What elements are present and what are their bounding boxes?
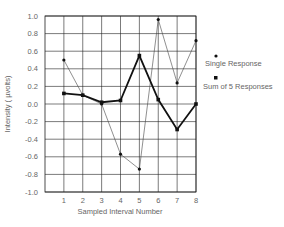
sum-data-point (100, 100, 104, 104)
legend-sum-marker-icon (214, 76, 218, 80)
sum-data-point (62, 92, 66, 96)
single-data-point (119, 153, 122, 156)
x-tick-label: 5 (137, 196, 141, 205)
y-tick-label: -0.8 (25, 170, 38, 179)
y-tick-label: 0.8 (28, 29, 38, 38)
y-axis-label: Intensity ( µvolts) (3, 75, 12, 132)
single-data-point (194, 39, 197, 42)
legend-single-label: Single Response (205, 59, 262, 68)
x-tick-label: 7 (175, 196, 179, 205)
y-tick-label: 0.4 (28, 64, 38, 73)
x-axis-ticks: 12345678 (62, 196, 198, 205)
x-tick-label: 2 (81, 196, 85, 205)
sum-data-point (81, 93, 85, 97)
y-tick-label: -0.6 (25, 152, 38, 161)
x-tick-label: 4 (118, 196, 122, 205)
legend-single-marker-icon (214, 54, 217, 57)
single-data-point (138, 168, 141, 171)
sum-data-point (119, 99, 123, 103)
x-tick-label: 6 (156, 196, 160, 205)
sum-data-point (156, 98, 160, 102)
y-tick-label: 0.0 (28, 100, 38, 109)
sum-data-point (194, 102, 198, 106)
chart-series (62, 18, 198, 171)
line-chart: 1.00.80.60.40.20.0-0.2-0.4-0.6-0.8-1.0 1… (0, 0, 284, 227)
legend: Single Response Sum of 5 Responses (203, 54, 273, 91)
x-tick-label: 3 (100, 196, 104, 205)
y-tick-label: -0.4 (25, 135, 38, 144)
y-tick-label: 1.0 (28, 12, 38, 21)
single-data-point (176, 81, 179, 84)
single-data-point (62, 58, 65, 61)
sum-series-line (64, 56, 196, 130)
y-tick-label: 0.2 (28, 82, 38, 91)
single-data-point (157, 18, 160, 21)
sum-data-point (138, 54, 142, 58)
y-tick-label: -1.0 (25, 188, 38, 197)
x-tick-label: 8 (194, 196, 198, 205)
x-tick-label: 1 (62, 196, 66, 205)
y-tick-label: -0.2 (25, 117, 38, 126)
legend-sum-label: Sum of 5 Responses (203, 82, 273, 91)
sum-data-point (175, 128, 179, 132)
x-axis-label: Sampled Interval Number (77, 207, 163, 216)
y-axis-ticks: 1.00.80.60.40.20.0-0.2-0.4-0.6-0.8-1.0 (25, 12, 38, 197)
y-tick-label: 0.6 (28, 47, 38, 56)
chart-grid (45, 16, 196, 192)
